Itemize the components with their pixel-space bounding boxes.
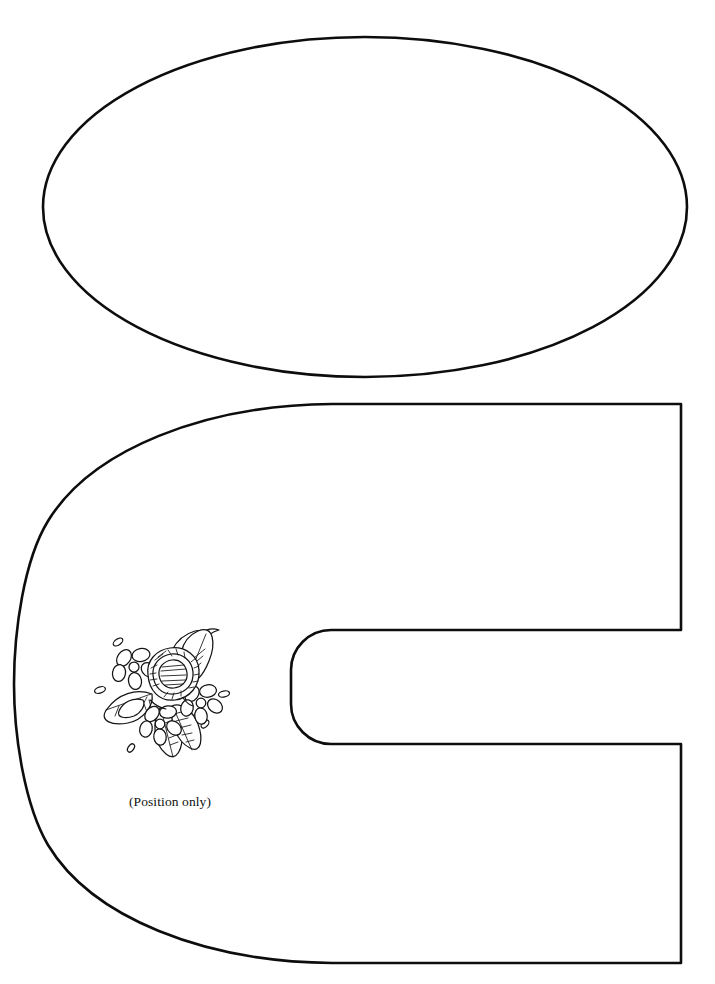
rose-icon [148, 648, 199, 700]
flower-center [155, 719, 165, 729]
oval-outline [43, 37, 687, 377]
position-only-label: (Position only) [129, 794, 211, 809]
pattern-sheet: (Position only) [0, 0, 715, 984]
pattern-canvas: (Position only) [0, 0, 715, 984]
flower-center [196, 698, 206, 708]
c-shaped-pattern-piece [14, 404, 681, 963]
c-shape-outline [14, 404, 681, 963]
oval-pattern-piece [43, 37, 687, 377]
flower-center [129, 662, 139, 672]
